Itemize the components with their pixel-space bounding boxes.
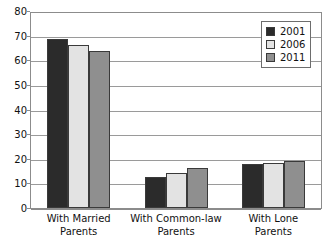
legend-item-2011[interactable]: 2011 (266, 51, 305, 64)
x-axis-category-labels: With MarriedParentsWith Common-lawParent… (30, 212, 322, 250)
y-axis-ticks (0, 12, 30, 209)
bar-chart: 80706050403020100 With MarriedParentsWit… (0, 0, 335, 251)
category-label: With Common-lawParents (127, 212, 224, 238)
bar-2011-0 (89, 51, 110, 208)
bar-2006-0 (68, 45, 89, 208)
category-label-line2: Parents (225, 225, 322, 238)
legend-swatch-icon (266, 40, 275, 49)
legend: 200120062011 (261, 21, 311, 68)
legend-item-2006[interactable]: 2006 (266, 38, 305, 51)
category-label: With LoneParents (225, 212, 322, 238)
legend-swatch-icon (266, 53, 275, 62)
legend-label: 2006 (280, 40, 305, 50)
bar-2001-0 (47, 39, 68, 208)
gridline (31, 209, 321, 210)
category-label-line2: Parents (30, 225, 127, 238)
legend-swatch-icon (266, 27, 275, 36)
bar-2006-2 (263, 163, 284, 208)
category-label-line2: Parents (127, 225, 224, 238)
category-label-line1: With Married (47, 213, 111, 224)
legend-label: 2001 (280, 27, 305, 37)
bar-2011-1 (187, 168, 208, 208)
bar-2001-1 (145, 177, 166, 208)
category-label: With MarriedParents (30, 212, 127, 238)
category-label-line1: With Common-law (130, 213, 222, 224)
legend-label: 2011 (280, 53, 305, 63)
legend-item-2001[interactable]: 2001 (266, 25, 305, 38)
category-label-line1: With Lone (248, 213, 298, 224)
bar-2011-2 (284, 161, 305, 208)
bar-2006-1 (166, 173, 187, 208)
bar-2001-2 (242, 164, 263, 208)
